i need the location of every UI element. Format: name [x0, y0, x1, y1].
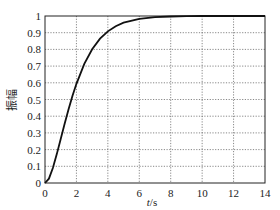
x-tick-label: 12	[228, 187, 239, 199]
y-axis-label: 振幅	[5, 89, 19, 111]
y-tick-label: 0.2	[27, 144, 41, 156]
y-tick-label: 0	[36, 177, 42, 189]
y-tick-label: 0.9	[27, 27, 41, 39]
y-tick-label: 0.4	[27, 110, 41, 122]
x-tick-label: 6	[137, 187, 143, 199]
y-axis-tick-labels: 00.10.20.30.40.50.60.70.80.91	[27, 10, 41, 189]
x-tick-label: 0	[42, 187, 48, 199]
step-response-chart: 02468101214 00.10.20.30.40.50.60.70.80.9…	[0, 0, 280, 210]
x-tick-label: 4	[105, 187, 111, 199]
x-tick-label: 10	[197, 187, 209, 199]
x-tick-label: 14	[260, 187, 272, 199]
y-tick-label: 0.3	[27, 127, 41, 139]
y-tick-label: 1	[36, 10, 42, 22]
y-tick-label: 0.8	[27, 43, 41, 55]
y-tick-label: 0.1	[27, 160, 41, 172]
grid-lines	[45, 16, 265, 183]
x-axis-label: t/s	[147, 196, 157, 208]
y-tick-label: 0.5	[27, 94, 41, 106]
x-tick-label: 8	[168, 187, 174, 199]
y-tick-label: 0.6	[27, 77, 41, 89]
x-tick-label: 2	[74, 187, 80, 199]
y-tick-label: 0.7	[27, 60, 41, 72]
